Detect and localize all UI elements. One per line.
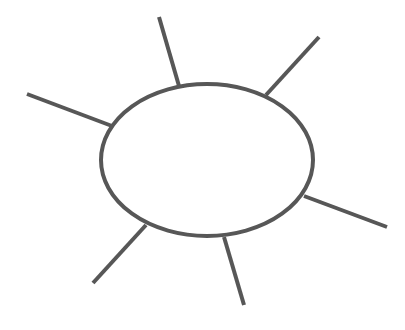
spider-diagram: [0, 0, 405, 330]
spoke-line-bottom-left: [93, 225, 146, 283]
spoke-line-top-right: [266, 37, 319, 95]
spoke-line-top: [159, 17, 179, 86]
spoke-line-left: [27, 94, 112, 126]
center-ellipse: [101, 84, 313, 236]
spoke-line-bottom: [224, 237, 244, 305]
spoke-line-right: [304, 196, 387, 227]
